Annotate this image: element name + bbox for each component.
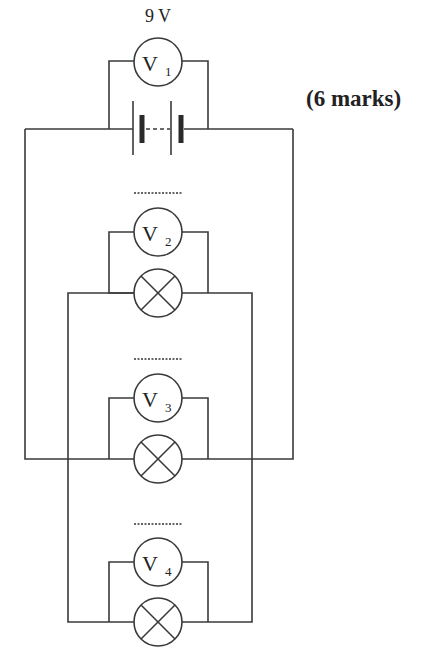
lamp-3-icon — [134, 598, 182, 646]
battery-voltage-label: 9 V — [145, 6, 171, 26]
voltmeter-v3-symbol: V — [142, 387, 158, 412]
voltmeter-v1-subscript: 1 — [165, 64, 172, 79]
outer-left-wire — [25, 129, 68, 459]
voltmeter-v2-symbol: V — [142, 221, 158, 246]
lamp-1-icon — [134, 269, 182, 317]
lamp-2-icon — [134, 435, 182, 483]
voltmeter-v4-symbol: V — [142, 551, 158, 576]
battery-icon — [25, 101, 293, 155]
inner-left-rail — [68, 293, 134, 622]
marks-label: (6 marks) — [306, 86, 401, 112]
voltmeter-v4-subscript: 4 — [165, 564, 172, 579]
voltmeter-v3-subscript: 3 — [165, 400, 172, 415]
voltmeter-v1-branch: V 1 — [109, 38, 208, 129]
voltmeter-v1-symbol: V — [142, 51, 158, 76]
voltmeter-v2-subscript: 2 — [165, 234, 172, 249]
inner-right-rail — [182, 293, 252, 622]
outer-right-wire — [252, 129, 293, 459]
